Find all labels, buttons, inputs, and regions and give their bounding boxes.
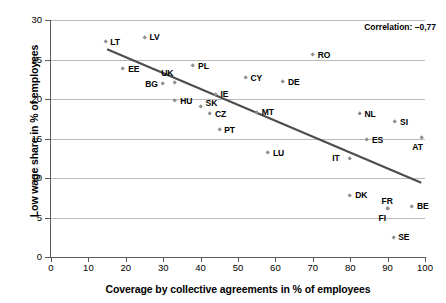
y-tick-label: 10	[12, 172, 42, 183]
data-point-marker	[161, 81, 166, 86]
x-tick-label: 60	[260, 262, 290, 273]
data-point-marker	[121, 66, 126, 71]
data-point-label: MT	[262, 107, 274, 117]
x-tick-label: 0	[36, 262, 66, 273]
data-point-label: DE	[288, 77, 300, 87]
data-point-marker	[213, 92, 218, 97]
y-tick-label: 15	[12, 133, 42, 144]
data-point-label: IE	[221, 89, 229, 99]
data-point-marker	[391, 235, 396, 240]
y-tick	[45, 178, 51, 179]
data-point-marker	[142, 35, 147, 40]
data-point-label: SE	[398, 232, 409, 242]
x-tick-label: 50	[223, 262, 253, 273]
gridline	[51, 218, 425, 219]
data-point-marker	[207, 112, 212, 117]
data-point-label: NL	[365, 109, 376, 119]
y-tick	[45, 60, 51, 61]
data-point-marker	[191, 63, 196, 68]
x-tick-label: 100	[410, 262, 440, 273]
data-point-label: BG	[145, 79, 158, 89]
correlation-annotation: Correlation: –0,77	[364, 22, 436, 32]
gridline	[51, 178, 425, 179]
data-point-marker	[393, 119, 398, 124]
x-tick-label: 10	[73, 262, 103, 273]
gridline	[51, 60, 425, 61]
x-tick-label: 40	[186, 262, 216, 273]
x-tick-label: 20	[111, 262, 141, 273]
y-tick-label: 5	[12, 212, 42, 223]
data-point-marker	[243, 75, 248, 80]
data-point-label: CZ	[215, 109, 226, 119]
data-point-label: IT	[332, 153, 339, 163]
data-point-label: UK	[161, 68, 173, 78]
data-point-label: BE	[417, 201, 429, 211]
y-tick-label: 0	[12, 251, 42, 262]
data-point-marker	[419, 135, 424, 140]
data-point-marker	[280, 79, 285, 84]
data-point-marker	[265, 150, 270, 155]
data-point-label: EE	[128, 64, 139, 74]
y-tick	[45, 20, 51, 21]
data-point-marker	[173, 80, 178, 85]
data-point-label: RO	[318, 50, 331, 60]
y-tick-label: 30	[12, 14, 42, 25]
data-point-label: LU	[273, 148, 284, 158]
data-point-marker	[103, 40, 108, 45]
data-point-label: LT	[110, 37, 120, 47]
data-point-marker	[217, 127, 222, 132]
data-point-marker	[348, 193, 353, 198]
data-point-label: DK	[355, 190, 367, 200]
x-tick-label: 30	[148, 262, 178, 273]
data-point-label: PL	[198, 61, 209, 71]
data-point-label: SK	[206, 98, 218, 108]
data-point-marker	[385, 206, 390, 211]
data-point-label: ES	[372, 135, 383, 145]
y-tick	[45, 218, 51, 219]
scatter-chart: Low wage share in % of employees Coverag…	[0, 0, 446, 303]
y-tick-label: 25	[12, 54, 42, 65]
x-tick-label: 90	[373, 262, 403, 273]
data-point-label: AT	[412, 142, 423, 152]
x-axis-title: Coverage by collective agreements in % o…	[51, 283, 425, 295]
data-point-label: FR	[382, 196, 393, 206]
data-point-label: FI	[379, 213, 386, 223]
data-point-marker	[198, 104, 203, 109]
data-point-label: CY	[250, 73, 262, 83]
data-point-label: PT	[224, 125, 235, 135]
data-point-marker	[310, 52, 315, 57]
data-point-label: LV	[150, 32, 160, 42]
data-point-marker	[173, 98, 178, 103]
data-point-marker	[254, 110, 259, 115]
data-point-marker	[409, 204, 414, 209]
data-point-marker	[365, 138, 370, 143]
gridline	[51, 99, 425, 100]
x-tick-label: 80	[335, 262, 365, 273]
data-point-marker	[357, 112, 362, 117]
y-tick-label: 20	[12, 93, 42, 104]
data-point-marker	[348, 156, 353, 161]
y-tick	[45, 99, 51, 100]
y-tick	[45, 139, 51, 140]
gridline	[51, 20, 425, 21]
x-tick-label: 70	[298, 262, 328, 273]
data-point-label: HU	[180, 96, 192, 106]
data-point-label: SI	[400, 117, 408, 127]
